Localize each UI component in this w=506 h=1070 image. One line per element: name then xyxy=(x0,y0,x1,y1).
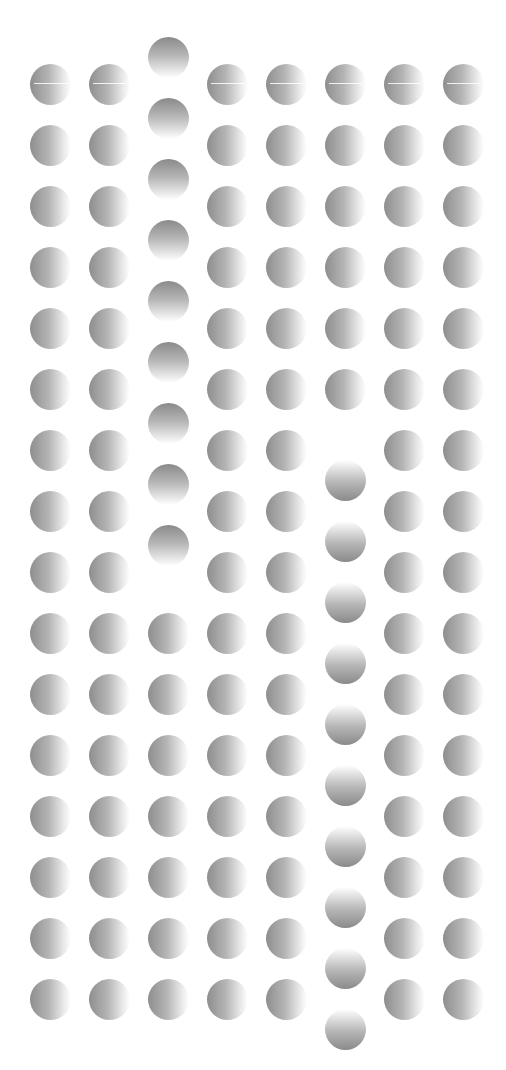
gradient-circle xyxy=(325,64,366,105)
gradient-circle xyxy=(266,64,307,105)
gradient-circle xyxy=(30,491,71,532)
gradient-circle xyxy=(148,220,189,261)
gradient-circle xyxy=(148,857,189,898)
gradient-circle xyxy=(148,159,189,200)
gradient-circle xyxy=(443,918,484,959)
gradient-circle xyxy=(325,704,366,745)
gradient-circle xyxy=(384,247,425,288)
gradient-circle xyxy=(30,674,71,715)
gradient-circle xyxy=(384,125,425,166)
gradient-circle xyxy=(266,918,307,959)
gradient-circle xyxy=(384,918,425,959)
gradient-circle xyxy=(89,186,130,227)
gradient-circle xyxy=(325,643,366,684)
gradient-circle xyxy=(89,796,130,837)
gradient-circle xyxy=(148,674,189,715)
gradient-circle xyxy=(266,430,307,471)
gradient-circle xyxy=(89,552,130,593)
gradient-circle xyxy=(325,887,366,928)
gradient-circle xyxy=(207,918,248,959)
gradient-circle xyxy=(384,979,425,1020)
gradient-circle xyxy=(443,125,484,166)
gradient-circle xyxy=(443,674,484,715)
gradient-circle xyxy=(148,796,189,837)
gradient-circle xyxy=(148,464,189,505)
gradient-circle xyxy=(266,613,307,654)
gradient-circle xyxy=(325,460,366,501)
gradient-circle xyxy=(325,521,366,562)
gradient-circle xyxy=(266,491,307,532)
gradient-circle xyxy=(325,948,366,989)
gradient-circle xyxy=(443,430,484,471)
gradient-circle xyxy=(325,125,366,166)
gradient-circle xyxy=(443,186,484,227)
gradient-circle xyxy=(30,979,71,1020)
gradient-circle xyxy=(266,369,307,410)
gradient-circle xyxy=(384,613,425,654)
gradient-circle xyxy=(207,613,248,654)
gradient-circle xyxy=(266,186,307,227)
gradient-circle xyxy=(148,342,189,383)
gradient-circle xyxy=(384,369,425,410)
gradient-circle xyxy=(207,857,248,898)
gradient-circle xyxy=(325,247,366,288)
gradient-circle xyxy=(443,979,484,1020)
gradient-circle xyxy=(325,826,366,867)
gradient-circle xyxy=(30,613,71,654)
gradient-circle xyxy=(207,186,248,227)
gradient-circle xyxy=(384,186,425,227)
gradient-circle xyxy=(325,1009,366,1050)
gradient-circle xyxy=(384,491,425,532)
gradient-circle xyxy=(148,613,189,654)
gradient-circle xyxy=(89,125,130,166)
gradient-circle xyxy=(207,491,248,532)
gradient-circle xyxy=(443,247,484,288)
gradient-circle xyxy=(89,491,130,532)
gradient-circle xyxy=(443,857,484,898)
gradient-circle xyxy=(148,525,189,566)
gradient-circle xyxy=(325,582,366,623)
gradient-circle xyxy=(266,674,307,715)
gradient-circle xyxy=(443,735,484,776)
gradient-circle xyxy=(443,552,484,593)
gradient-circle xyxy=(325,186,366,227)
gradient-circle xyxy=(207,125,248,166)
gradient-circle xyxy=(30,247,71,288)
gradient-circle xyxy=(443,796,484,837)
gradient-circle xyxy=(89,857,130,898)
gradient-circle xyxy=(266,796,307,837)
gradient-circle xyxy=(384,552,425,593)
gradient-circle xyxy=(207,308,248,349)
gradient-circle xyxy=(30,735,71,776)
gradient-circle xyxy=(89,247,130,288)
gradient-circle xyxy=(266,979,307,1020)
gradient-circle xyxy=(89,430,130,471)
gradient-circle xyxy=(148,281,189,322)
gradient-circle xyxy=(30,796,71,837)
gradient-circle xyxy=(30,552,71,593)
gradient-circle xyxy=(325,308,366,349)
gradient-circle xyxy=(30,857,71,898)
gradient-circle xyxy=(148,735,189,776)
gradient-circle xyxy=(325,369,366,410)
gradient-circle xyxy=(266,308,307,349)
gradient-circle xyxy=(266,125,307,166)
gradient-circle xyxy=(266,735,307,776)
gradient-circle xyxy=(384,674,425,715)
gradient-circle xyxy=(443,308,484,349)
gradient-circle xyxy=(30,186,71,227)
gradient-circle xyxy=(207,796,248,837)
gradient-circle xyxy=(266,857,307,898)
gradient-circle xyxy=(443,491,484,532)
gradient-circle xyxy=(148,918,189,959)
gradient-circle xyxy=(207,979,248,1020)
gradient-circle xyxy=(207,552,248,593)
gradient-circle xyxy=(30,369,71,410)
gradient-circle xyxy=(30,125,71,166)
gradient-circle xyxy=(266,552,307,593)
gradient-circle xyxy=(89,64,130,105)
gradient-circle xyxy=(384,430,425,471)
gradient-circle xyxy=(207,247,248,288)
gradient-circle xyxy=(443,613,484,654)
gradient-circle xyxy=(89,979,130,1020)
